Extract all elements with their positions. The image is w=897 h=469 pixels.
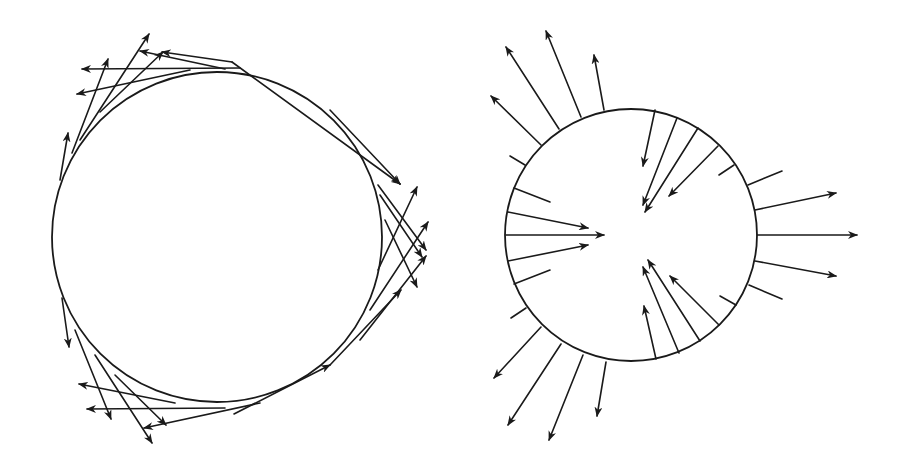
vector-arrow [506,47,559,129]
vector-arrow [491,96,541,145]
vector-arrow [494,327,541,378]
vector-arrow [670,276,719,325]
vector-arrow [643,110,655,166]
vector-arrow [755,261,836,276]
tangential-field-panel [52,34,428,443]
vector-tick [748,171,782,185]
vector-arrow [648,260,700,341]
vector-arrow [597,362,606,416]
vector-arrow [549,355,583,440]
vector-tick [720,296,736,305]
vector-arrow [82,68,240,69]
vector-field-diagram [0,0,897,469]
normal-field-panel [491,31,857,440]
vector-arrow [330,290,401,365]
tangential-field-circle [52,72,382,402]
vector-arrow [508,245,588,261]
vector-arrow [669,146,718,196]
vector-tick [514,188,550,202]
vector-arrow [644,306,656,359]
vector-arrow [77,70,190,94]
figure-canvas [0,0,897,469]
vector-arrow [508,212,588,228]
vector-tick [511,308,526,318]
vector-tick [719,165,734,175]
vector-arrow [594,55,604,110]
vector-arrow [755,193,836,210]
vector-tick [510,156,525,165]
vector-arrow [144,403,260,428]
vector-arrow [546,31,581,117]
vector-arrow [62,298,69,347]
vector-arrow [330,110,400,184]
vector-tick [749,285,782,299]
vector-tick [514,270,550,284]
vector-arrow [645,128,698,212]
vector-arrow [140,51,225,69]
vector-arrow [234,365,330,414]
vector-arrow [80,34,149,140]
vector-arrow [508,344,561,425]
vector-arrow [380,195,422,257]
vector-arrow [162,52,232,62]
vector-arrow [75,330,111,419]
vector-arrow [87,408,225,409]
vector-arrow [232,62,400,184]
